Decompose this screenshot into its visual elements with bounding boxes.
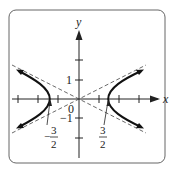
y-tick-label-1: 1 bbox=[66, 73, 72, 87]
svg-text:−: − bbox=[44, 130, 50, 142]
y-axis-label: y bbox=[75, 15, 82, 29]
svg-text:2: 2 bbox=[100, 138, 106, 150]
svg-text:3: 3 bbox=[51, 124, 57, 136]
svg-text:3: 3 bbox=[100, 124, 106, 136]
hyperbola-graph: x y 0 1 −1 − 3 2 3 2 bbox=[0, 0, 172, 169]
graph-frame bbox=[9, 10, 165, 163]
x-axis-label: x bbox=[162, 92, 169, 106]
svg-text:2: 2 bbox=[51, 138, 57, 150]
y-tick-label-neg-1: −1 bbox=[60, 111, 73, 125]
